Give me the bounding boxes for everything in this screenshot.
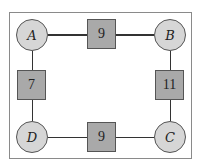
node-b: B	[154, 19, 186, 51]
node-c: C	[154, 121, 186, 153]
weight-b-c: 11	[155, 70, 184, 100]
weight-d-c: 9	[87, 122, 116, 152]
weight-a-d: 7	[17, 70, 46, 100]
graph-diagram: 9 7 11 9 A B C D	[0, 0, 204, 164]
node-a: A	[16, 19, 48, 51]
weight-a-b: 9	[87, 19, 116, 49]
node-d: D	[16, 121, 48, 153]
